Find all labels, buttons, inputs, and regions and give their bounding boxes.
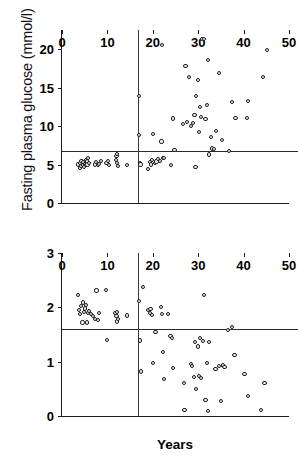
data-point bbox=[259, 408, 263, 412]
data-point bbox=[227, 149, 231, 153]
data-point bbox=[182, 381, 186, 385]
data-point bbox=[193, 165, 197, 169]
data-point bbox=[80, 320, 84, 324]
data-point bbox=[138, 338, 142, 342]
data-point bbox=[159, 139, 163, 143]
data-point bbox=[99, 159, 103, 163]
data-point bbox=[151, 132, 155, 136]
data-point bbox=[190, 364, 194, 368]
data-point bbox=[222, 365, 226, 369]
data-point bbox=[183, 64, 187, 68]
data-point bbox=[202, 37, 206, 41]
x-tick-bottom-50 bbox=[289, 253, 290, 257]
data-point bbox=[230, 100, 234, 104]
scatter-plot-area-top bbox=[62, 30, 289, 203]
data-point bbox=[242, 372, 246, 376]
data-point bbox=[209, 135, 213, 139]
y-tick-top-0 bbox=[58, 203, 62, 204]
data-point bbox=[226, 328, 230, 332]
x-tick-top-50 bbox=[289, 30, 290, 34]
data-point bbox=[192, 375, 196, 379]
data-point bbox=[199, 376, 203, 380]
scatter-plot-area-bottom bbox=[62, 253, 289, 416]
data-point bbox=[115, 310, 119, 314]
data-point bbox=[192, 113, 196, 117]
data-point bbox=[207, 340, 211, 344]
data-point bbox=[233, 116, 237, 120]
horizontal-reference-line bbox=[62, 151, 298, 152]
data-point bbox=[162, 377, 166, 381]
y-axis-title-top: Fasting plasma glucose (mmol/l) bbox=[19, 8, 35, 211]
data-point bbox=[104, 288, 108, 292]
data-point bbox=[205, 361, 209, 365]
data-point bbox=[191, 121, 195, 125]
data-point bbox=[159, 305, 163, 309]
data-point bbox=[105, 338, 109, 342]
data-point bbox=[265, 48, 269, 52]
data-point bbox=[220, 138, 224, 142]
data-point bbox=[172, 148, 176, 152]
y-tick-bottom-0 bbox=[58, 416, 62, 417]
y-tick-label-bottom-1: 1 bbox=[24, 356, 54, 369]
data-point bbox=[107, 163, 111, 167]
data-point bbox=[217, 71, 221, 75]
data-point bbox=[96, 318, 100, 322]
data-point bbox=[197, 130, 201, 134]
data-point bbox=[202, 293, 206, 297]
data-point bbox=[262, 381, 266, 385]
y-tick-label-top-0: 0 bbox=[24, 197, 54, 210]
data-point bbox=[246, 99, 250, 103]
data-point bbox=[151, 361, 155, 365]
data-point bbox=[194, 94, 198, 98]
data-point bbox=[162, 156, 166, 160]
data-point bbox=[87, 161, 91, 165]
panel-fasting-plasma-glucose: Fasting plasma glucose (mmol/l) 0 5 10 1… bbox=[0, 0, 298, 228]
data-point bbox=[148, 307, 152, 311]
data-point bbox=[141, 285, 145, 289]
data-point bbox=[230, 325, 234, 329]
data-point bbox=[150, 313, 154, 317]
data-point bbox=[212, 147, 216, 151]
data-point bbox=[232, 353, 236, 357]
data-point bbox=[160, 312, 164, 316]
data-point bbox=[170, 336, 174, 340]
data-point bbox=[116, 164, 120, 168]
data-point bbox=[94, 288, 98, 292]
horizontal-reference-line bbox=[62, 329, 298, 330]
y-tick-label-top-10: 10 bbox=[24, 120, 54, 133]
data-point bbox=[115, 152, 119, 156]
data-point bbox=[86, 156, 90, 160]
figure-container: Fasting plasma glucose (mmol/l) 0 5 10 1… bbox=[0, 0, 298, 459]
data-point bbox=[201, 339, 205, 343]
axes-bottom: 0 1 2 3 0 10 20 30 40 50 bbox=[61, 253, 289, 417]
y-tick-label-top-5: 5 bbox=[24, 159, 54, 172]
data-point bbox=[160, 43, 164, 47]
data-point bbox=[137, 299, 141, 303]
y-tick-label-bottom-2: 2 bbox=[24, 301, 54, 314]
vertical-reference-line bbox=[138, 253, 139, 416]
data-point bbox=[171, 116, 175, 120]
data-point bbox=[196, 78, 200, 82]
data-point bbox=[97, 311, 101, 315]
data-point bbox=[153, 330, 157, 334]
data-point bbox=[205, 103, 209, 107]
y-tick-label-top-15: 15 bbox=[24, 82, 54, 95]
data-point bbox=[125, 163, 129, 167]
data-point bbox=[106, 159, 110, 163]
data-point bbox=[125, 313, 129, 317]
data-point bbox=[166, 312, 170, 316]
vertical-reference-line bbox=[138, 30, 139, 203]
data-point bbox=[76, 293, 80, 297]
data-point bbox=[245, 116, 249, 120]
data-point bbox=[261, 75, 265, 79]
y-tick-label-bottom-0: 0 bbox=[24, 410, 54, 423]
data-point bbox=[207, 152, 211, 156]
data-point bbox=[116, 317, 120, 321]
data-point bbox=[206, 58, 210, 62]
data-point bbox=[161, 350, 165, 354]
data-point bbox=[171, 366, 175, 370]
data-point bbox=[137, 133, 141, 137]
data-point bbox=[214, 129, 218, 133]
data-point bbox=[219, 399, 223, 403]
data-point bbox=[187, 75, 191, 79]
